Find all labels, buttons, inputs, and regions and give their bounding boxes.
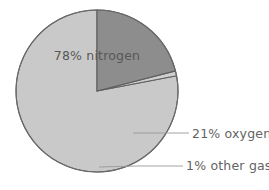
- pie-label-nitrogen: 78% nitrogen: [0, 48, 194, 63]
- pie-label-other-gases: 1% other gases: [186, 158, 269, 173]
- pie-label-oxygen: 21% oxygen: [192, 126, 269, 141]
- pie-chart-figure: 78% nitrogen 21% oxygen 1% other gases: [0, 0, 269, 190]
